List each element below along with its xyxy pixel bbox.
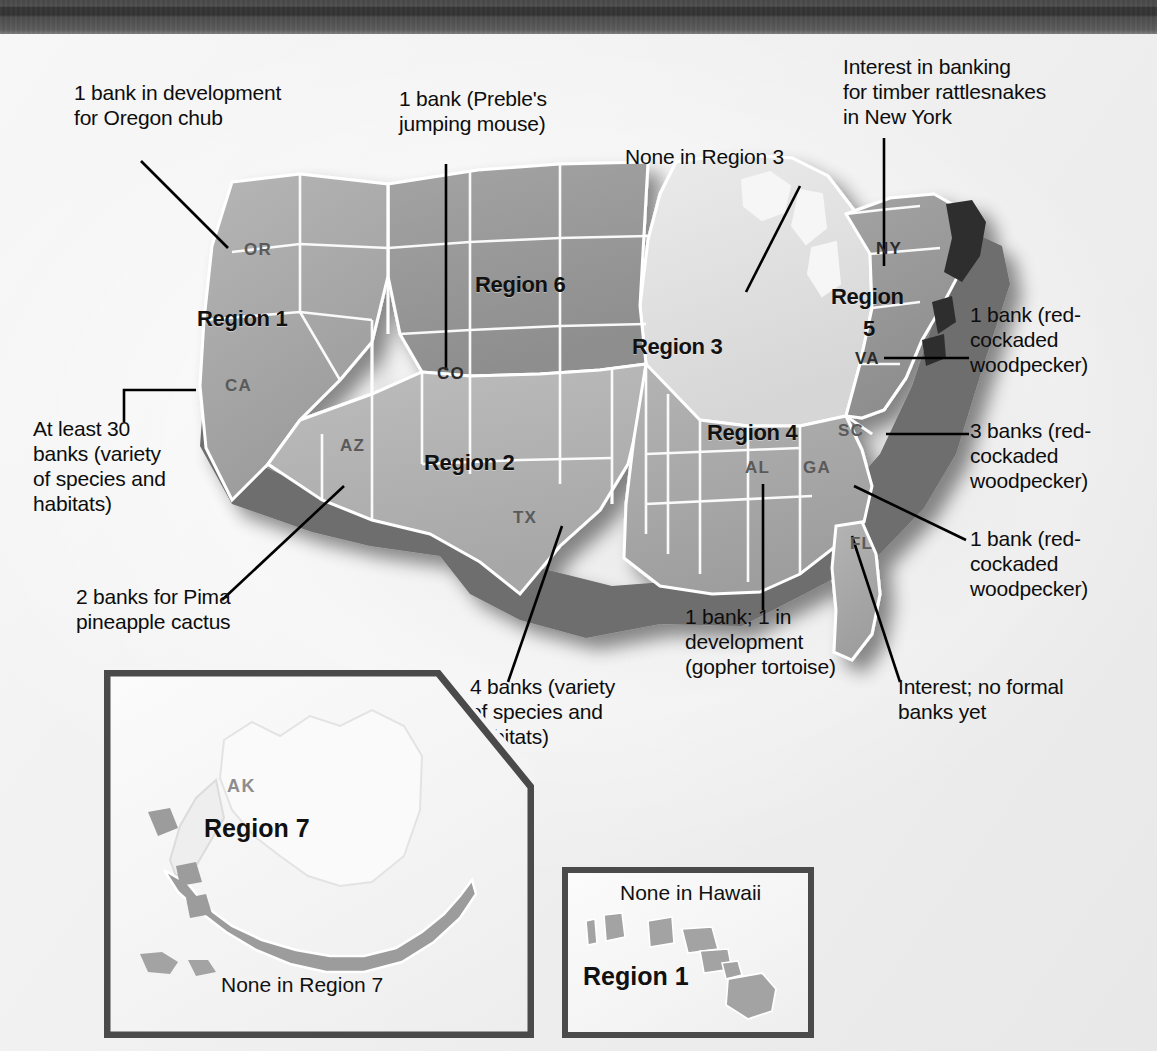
callout-georgia-woodpecker: 1 bank (red- cockaded woodpecker) [970, 526, 1150, 601]
callout-gopher-tortoise: 1 bank; 1 in development (gopher tortois… [685, 604, 885, 679]
callout-south-carolina-woodpecker: 3 banks (red- cockaded woodpecker) [970, 418, 1156, 493]
map-label-state-tx: TX [513, 508, 537, 528]
alaska-inset-region-label: Region 7 [204, 814, 310, 843]
callout-oregon-chub: 1 bank in development for Oregon chub [74, 80, 344, 130]
map-label-state-co: CO [437, 364, 465, 384]
map-label-region-1: Region 1 [197, 306, 288, 332]
hawaii-inset-region-label: Region 1 [583, 962, 689, 991]
callout-pima-pineapple-cactus: 2 banks for Pima pineapple cactus [76, 584, 326, 634]
alaska-inset-caption: None in Region 7 [221, 972, 383, 997]
callout-virginia-woodpecker: 1 bank (red- cockaded woodpecker) [970, 302, 1150, 377]
map-label-region-5-line2: 5 [863, 316, 875, 342]
region-6-area [388, 162, 648, 376]
callout-prebles-jumping-mouse: 1 bank (Preble's jumping mouse) [399, 86, 619, 136]
map-label-state-sc: SC [838, 421, 864, 441]
callout-none-region-3: None in Region 3 [625, 144, 855, 169]
map-label-region-3: Region 3 [632, 334, 723, 360]
hawaii-inset-caption: None in Hawaii [620, 880, 761, 905]
map-label-state-or: OR [244, 240, 272, 260]
callout-timber-rattlesnakes: Interest in banking for timber rattlesna… [843, 54, 1099, 129]
alaska-inset-state-label: AK [227, 776, 256, 797]
map-label-region-6: Region 6 [475, 272, 566, 298]
map-label-state-al: AL [745, 458, 770, 478]
map-label-state-ca: CA [225, 376, 252, 396]
map-label-state-fl: FL [850, 534, 873, 554]
top-scan-band [0, 0, 1157, 34]
map-label-region-2: Region 2 [424, 450, 515, 476]
map-label-region-4: Region 4 [707, 420, 798, 446]
map-label-state-az: AZ [340, 436, 365, 456]
callout-florida-interest: Interest; no formal banks yet [898, 674, 1118, 724]
map-page: 1 bank in development for Oregon chub 1 … [0, 0, 1157, 1051]
callout-california-variety: At least 30 banks (variety of species an… [33, 416, 213, 516]
map-label-state-ga: GA [803, 458, 831, 478]
map-label-state-ny: NY [876, 239, 902, 259]
leader-oregon-chub [141, 161, 228, 248]
map-label-state-va: VA [855, 349, 880, 369]
map-label-region-5-line1: Region [831, 284, 904, 310]
map-stage: 1 bank in development for Oregon chub 1 … [0, 34, 1157, 1051]
